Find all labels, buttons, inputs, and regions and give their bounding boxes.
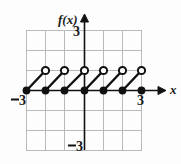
closed-endpoint bbox=[61, 87, 69, 95]
open-endpoint bbox=[100, 67, 107, 74]
open-endpoint bbox=[81, 67, 88, 74]
closed-endpoint bbox=[81, 87, 89, 95]
x-axis-label: x bbox=[169, 82, 177, 97]
coordinate-plot: f(x) x 3 3 3 3 bbox=[0, 0, 181, 164]
closed-endpoint bbox=[119, 87, 127, 95]
open-endpoint bbox=[119, 67, 126, 74]
closed-endpoint bbox=[42, 87, 50, 95]
y-tick-label-negative-three: 3 bbox=[76, 139, 83, 154]
figure-background bbox=[0, 0, 181, 164]
y-tick-label-positive-three: 3 bbox=[73, 24, 80, 39]
x-tick-label-negative-three: 3 bbox=[19, 93, 26, 108]
x-tick-label-positive-three: 3 bbox=[137, 93, 144, 108]
open-endpoint bbox=[42, 67, 49, 74]
open-endpoint bbox=[138, 67, 145, 74]
graph-figure: f(x) x 3 3 3 3 bbox=[0, 0, 181, 164]
open-endpoint bbox=[61, 67, 68, 74]
closed-endpoint bbox=[100, 87, 108, 95]
